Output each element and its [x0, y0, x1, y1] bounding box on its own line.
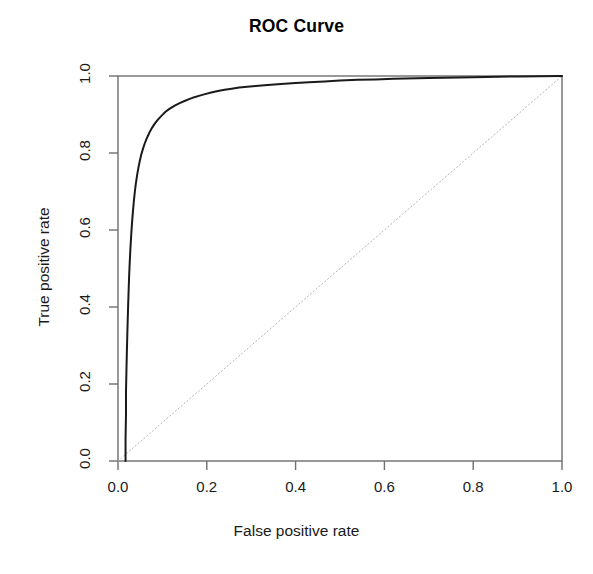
roc-curve-chart: ROC Curve 0.00.20.40.60.81.0 0.00.20.40.… — [0, 0, 593, 574]
y-tick-label: 0.8 — [76, 129, 93, 173]
x-tick-label: 0.8 — [451, 478, 495, 495]
roc-curve-line — [126, 76, 562, 461]
chance-diagonal-line — [118, 76, 562, 461]
y-tick-label: 0.4 — [76, 283, 93, 327]
x-tick-label: 0.4 — [274, 478, 318, 495]
x-axis-label: False positive rate — [0, 522, 593, 540]
x-tick-label: 0.0 — [96, 478, 140, 495]
y-tick-label: 0.6 — [76, 206, 93, 250]
x-tick-label: 1.0 — [540, 478, 584, 495]
y-axis-label: True positive rate — [35, 142, 53, 392]
y-tick-label: 0.2 — [76, 360, 93, 404]
x-tick-label: 0.6 — [362, 478, 406, 495]
y-tick-label: 1.0 — [76, 52, 93, 96]
x-tick-label: 0.2 — [185, 478, 229, 495]
y-tick-label: 0.0 — [76, 437, 93, 481]
